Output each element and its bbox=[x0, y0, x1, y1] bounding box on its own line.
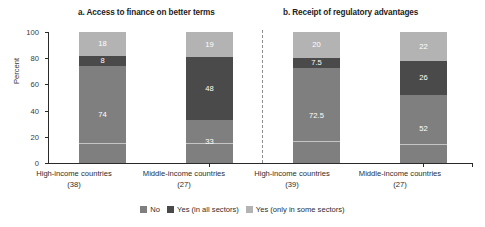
segment-value-label: 48 bbox=[205, 85, 213, 93]
segment-no: 33 bbox=[186, 120, 233, 163]
x-axis-line bbox=[48, 163, 472, 164]
x-label-panel-a-high-income: High-income countries (38) bbox=[14, 169, 134, 190]
x-label-count: (39) bbox=[232, 180, 352, 191]
x-label-panel-a-middle-income: Middle-income countries (27) bbox=[124, 169, 244, 190]
segment-yes-all: 26 bbox=[400, 61, 447, 95]
segment-value-label: 7.5 bbox=[311, 59, 322, 67]
x-label-name: Middle-income countries bbox=[143, 169, 225, 178]
inner-rule bbox=[79, 143, 126, 144]
segment-no: 72.5 bbox=[293, 68, 340, 163]
y-tick-label-80: 80 bbox=[31, 54, 39, 63]
segment-value-label: 72.5 bbox=[309, 112, 324, 120]
inner-rule bbox=[293, 141, 340, 142]
bar-panel-a-middle-income[interactable]: 19 48 33 bbox=[186, 32, 233, 163]
bar-panel-b-high-income[interactable]: 20 7.5 72.5 bbox=[293, 32, 340, 163]
chart-legend: No Yes (in all sectors) Yes (only in som… bbox=[0, 205, 485, 214]
panel-b-title: b. Receipt of regulatory advantages bbox=[283, 8, 418, 17]
segment-value-label: 19 bbox=[205, 41, 213, 49]
panel-a-title: a. Access to finance on better terms bbox=[78, 8, 215, 17]
segment-no: 74 bbox=[79, 66, 126, 163]
x-label-count: (27) bbox=[340, 180, 460, 191]
y-tick-label-20: 20 bbox=[31, 132, 39, 141]
y-axis-line bbox=[48, 32, 49, 163]
segment-yes-some: 20 bbox=[293, 32, 340, 58]
y-tick-label-40: 40 bbox=[31, 106, 39, 115]
segment-value-label: 33 bbox=[205, 138, 213, 146]
legend-label: Yes (in all sectors) bbox=[177, 205, 239, 214]
bar-panel-a-high-income[interactable]: 18 8 74 bbox=[79, 32, 126, 163]
segment-value-label: 26 bbox=[419, 74, 427, 82]
segment-value-label: 18 bbox=[98, 40, 106, 48]
inner-rule bbox=[400, 144, 447, 145]
plot-area: 100 80 60 40 20 0 18 8 74 bbox=[48, 32, 472, 163]
legend-item-no[interactable]: No bbox=[140, 205, 160, 214]
x-tick-right-end bbox=[472, 163, 473, 167]
y-tick-100: 100 bbox=[45, 32, 49, 33]
y-tick-label-100: 100 bbox=[26, 28, 39, 37]
segment-value-label: 22 bbox=[419, 43, 427, 51]
legend-swatch-icon bbox=[246, 206, 253, 213]
x-label-name: High-income countries bbox=[254, 169, 330, 178]
segment-value-label: 52 bbox=[419, 125, 427, 133]
bar-panel-b-middle-income[interactable]: 22 26 52 bbox=[400, 32, 447, 163]
segment-value-label: 20 bbox=[312, 41, 320, 49]
y-tick-0: 0 bbox=[45, 163, 49, 164]
x-label-name: Middle-income countries bbox=[359, 169, 441, 178]
legend-label: Yes (only in some sectors) bbox=[256, 205, 345, 214]
panel-divider-dashed-line bbox=[262, 30, 263, 163]
segment-yes-some: 22 bbox=[400, 32, 447, 61]
segment-yes-some: 19 bbox=[186, 32, 233, 57]
x-label-count: (38) bbox=[14, 180, 134, 191]
stacked-bar-chart-figure: a. Access to finance on better terms b. … bbox=[0, 0, 485, 227]
x-tick-panel-b bbox=[423, 163, 424, 167]
segment-yes-all: 7.5 bbox=[293, 58, 340, 68]
x-label-panel-b-high-income: High-income countries (39) bbox=[232, 169, 352, 190]
segment-no: 52 bbox=[400, 95, 447, 163]
x-label-panel-b-middle-income: Middle-income countries (27) bbox=[340, 169, 460, 190]
inner-rule bbox=[186, 143, 233, 144]
y-tick-80: 80 bbox=[45, 58, 49, 59]
y-tick-label-60: 60 bbox=[31, 80, 39, 89]
y-tick-20: 20 bbox=[45, 137, 49, 138]
legend-item-yes-some-sectors[interactable]: Yes (only in some sectors) bbox=[246, 205, 345, 214]
legend-item-yes-all-sectors[interactable]: Yes (in all sectors) bbox=[167, 205, 239, 214]
legend-swatch-icon bbox=[167, 206, 174, 213]
y-tick-60: 60 bbox=[45, 84, 49, 85]
y-tick-label-0: 0 bbox=[35, 159, 39, 168]
x-label-name: High-income countries bbox=[36, 169, 112, 178]
segment-value-label: 74 bbox=[98, 111, 106, 119]
y-axis-title: Percent bbox=[12, 58, 21, 84]
segment-yes-some: 18 bbox=[79, 32, 126, 56]
segment-yes-all: 48 bbox=[186, 57, 233, 120]
legend-label: No bbox=[150, 205, 160, 214]
segment-value-label: 8 bbox=[100, 57, 104, 65]
segment-yes-all: 8 bbox=[79, 56, 126, 66]
x-label-count: (27) bbox=[124, 180, 244, 191]
x-tick-panel-a bbox=[209, 163, 210, 167]
legend-swatch-icon bbox=[140, 206, 147, 213]
y-tick-40: 40 bbox=[45, 111, 49, 112]
